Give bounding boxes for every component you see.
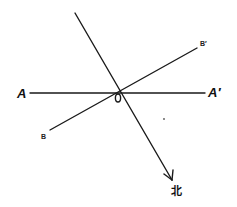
north-direction-line <box>75 13 172 180</box>
stray-mark <box>163 118 165 120</box>
geometry-diagram: A A′ B B′ 北 <box>0 0 237 207</box>
label-north: 北 <box>171 184 182 198</box>
label-b-prime: B′ <box>200 40 207 47</box>
line-b-b-prime <box>50 48 197 130</box>
label-b: B <box>41 133 46 140</box>
label-a: A <box>16 86 26 101</box>
origin-point-mark <box>115 94 120 102</box>
label-a-prime: A′ <box>207 85 221 100</box>
